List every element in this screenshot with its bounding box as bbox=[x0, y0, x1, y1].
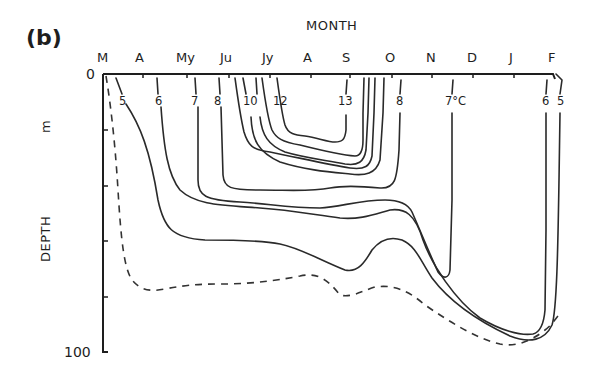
month-label: N bbox=[426, 50, 436, 65]
month-label: F bbox=[548, 50, 555, 65]
isotherm-label: 8 bbox=[214, 94, 221, 108]
top-axis bbox=[103, 74, 555, 79]
isotherm-label: 6 bbox=[542, 94, 549, 108]
isotherm-12-inner bbox=[262, 78, 364, 156]
month-label: Ju bbox=[219, 50, 232, 65]
y-tick-100: 100 bbox=[64, 344, 91, 360]
month-label: M bbox=[97, 50, 108, 65]
panel-label: (b) bbox=[26, 25, 62, 50]
isotherm-label: 7°C bbox=[445, 94, 466, 108]
month-label: Jy bbox=[261, 50, 274, 65]
isotherm-7 bbox=[195, 78, 453, 277]
month-label: J bbox=[508, 50, 513, 65]
isotherm-label: 12 bbox=[273, 94, 288, 108]
isotherm-label: 10 bbox=[243, 94, 258, 108]
isotherm-6 bbox=[157, 78, 547, 334]
left-axis bbox=[103, 74, 108, 352]
isotherm-label: 5 bbox=[119, 94, 126, 108]
isotherm-label: 6 bbox=[155, 94, 162, 108]
month-label: D bbox=[467, 50, 477, 65]
isotherm-depth-chart: (b) MONTH M A My Ju Jy A S O N D J F bbox=[0, 0, 589, 381]
y-axis-title: DEPTH bbox=[38, 216, 53, 262]
isotherm-12 bbox=[256, 78, 369, 164]
dashed-boundary-line bbox=[106, 76, 558, 345]
isotherm-label: 7 bbox=[191, 94, 198, 108]
isotherm-11 bbox=[235, 78, 375, 169]
month-label: O bbox=[385, 50, 395, 65]
isotherm-label: 5 bbox=[557, 94, 564, 108]
month-label: My bbox=[176, 50, 195, 65]
month-label: A bbox=[135, 50, 144, 65]
y-axis-unit: m bbox=[38, 120, 53, 133]
y-tick-0: 0 bbox=[86, 66, 95, 82]
isotherm-label: 13 bbox=[338, 94, 353, 108]
x-axis-title: MONTH bbox=[306, 18, 357, 33]
isotherm-label: 8 bbox=[396, 94, 403, 108]
isotherm-13 bbox=[277, 78, 347, 142]
month-label: S bbox=[342, 50, 350, 65]
isotherm-labels: 5 6 7 8 10 12 13 8 7°C 6 5 bbox=[119, 94, 564, 108]
month-label: A bbox=[303, 50, 312, 65]
month-labels: M A My Ju Jy A S O N D J F bbox=[97, 50, 555, 65]
isotherm-5 bbox=[116, 74, 562, 340]
